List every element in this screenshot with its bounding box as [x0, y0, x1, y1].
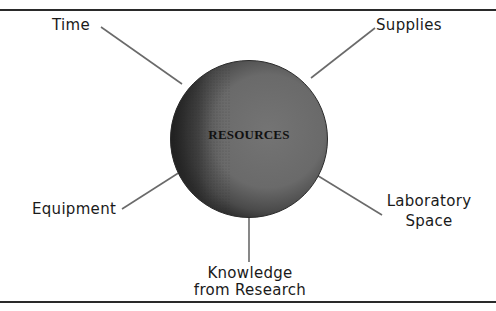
label-line-2: from Research	[184, 282, 316, 299]
node-label-time: Time	[52, 17, 90, 34]
connector-laboratory-space	[315, 174, 382, 215]
node-label-knowledge: Knowledge from Research	[184, 265, 316, 299]
node-label-supplies: Supplies	[376, 17, 442, 34]
connector-time	[101, 27, 182, 84]
center-label-resources: RESOURCES	[190, 127, 308, 143]
label-line-1: Knowledge	[184, 265, 316, 282]
node-label-equipment: Equipment	[32, 201, 116, 218]
label-line-2: Space	[379, 213, 479, 230]
node-label-laboratory-space: Laboratory Space	[379, 193, 479, 230]
connector-supplies	[311, 28, 375, 78]
label-line-1: Laboratory	[379, 193, 479, 210]
connector-equipment	[122, 172, 180, 209]
